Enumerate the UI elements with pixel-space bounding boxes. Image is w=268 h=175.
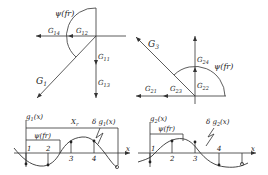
left-point-label-1: 1 [27,145,31,153]
left-psi-label: ψ(fr) [55,9,74,18]
right-point-4 [218,164,221,167]
g14-label: G14 [48,27,60,36]
g11-label: G11 [98,53,110,62]
left-point-label-2: 2 [45,145,51,153]
g22-label: G22 [197,82,209,91]
left-vector-diagram: ψ(fr) G14 G12 G11 G13 G1 [36,8,126,98]
right-point-label-3: 3 [193,155,198,163]
right-wave-plot: x g2(x) ψ(fr) δ g2(x) 1 2 3 4 [138,115,256,167]
g23-label: G23 [170,85,182,94]
left-y-label: g1(x) [26,113,43,122]
left-delta-label: δ g1(x) [92,118,116,127]
right-delta-pointer [206,128,214,146]
right-point-label-1: 1 [151,145,155,153]
right-g23-arrowhead [163,94,168,98]
left-point-3 [70,141,73,144]
diagram-canvas: ψ(fr) G14 G12 G11 G13 G1 G3 G24 ψ(fr) G2… [0,0,268,175]
right-psi-label: ψ(fr) [214,62,233,71]
right-delta-label: δ g2(x) [206,118,230,127]
left-g12-arrowhead [68,34,73,38]
right-point-2 [171,140,174,143]
right-vector-diagram: G3 G24 ψ(fr) G22 G21 G23 [136,36,233,104]
g3-label: G3 [148,39,159,50]
left-point-label-3: 3 [69,155,74,163]
left-point-2 [47,164,50,167]
left-psi-bracket-label: ψ(fr) [34,132,51,140]
left-point-4 [93,140,96,143]
left-delta-pointer [96,128,103,144]
left-point-label-4: 4 [91,155,96,163]
right-point-1 [149,161,152,164]
right-y-label: g2(x) [150,115,167,124]
right-point-label-4: 4 [216,145,221,153]
right-point-label-2: 2 [169,155,175,163]
left-point-1 [25,163,28,166]
g1-label: G1 [36,76,47,87]
left-g1-vector [37,36,96,98]
g24-label: G24 [197,56,209,65]
right-psi-bracket-label: ψ(fr) [158,125,175,133]
g12-label: G12 [76,27,88,36]
right-g22-arrowhead [193,67,197,72]
right-point-3 [194,141,197,144]
g13-label: G13 [98,79,110,88]
left-x-label: x [126,145,130,153]
left-wave-plot: x g1(x) Xr ψ(fr) δ g1(x) 1 2 3 4 [14,113,130,169]
left-xr-label: Xr [70,118,79,127]
right-x-label: x [251,145,255,153]
g21-label: G21 [145,85,157,94]
right-psi-bracket [150,134,183,141]
